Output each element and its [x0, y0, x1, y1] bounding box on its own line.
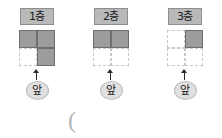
- paren-mark: (: [68, 108, 76, 132]
- grid-cell-r0c1[interactable]: [185, 30, 203, 48]
- grid-floor-1: [19, 30, 55, 66]
- grid-cell-r1c1[interactable]: [111, 48, 129, 66]
- up-arrow-icon: [180, 69, 190, 80]
- grid-cell-r1c0[interactable]: [19, 48, 37, 66]
- grid-cell-r1c1[interactable]: [37, 48, 55, 66]
- worksheet-canvas: 1층 앞 2층: [0, 0, 222, 138]
- grid-cell-r0c1[interactable]: [111, 30, 129, 48]
- figure-floor-3: 3층 앞: [148, 0, 222, 110]
- grid-cell-r0c1[interactable]: [37, 30, 55, 48]
- grid-floor-3: [167, 30, 203, 66]
- front-label-3: 앞: [174, 81, 197, 100]
- figure-row: 1층 앞 2층: [0, 0, 222, 110]
- grid-cell-r0c0[interactable]: [93, 30, 111, 48]
- grid-cell-r1c1[interactable]: [185, 48, 203, 66]
- grid-floor-2: [93, 30, 129, 66]
- arrow-shaft: [184, 72, 185, 80]
- arrow-shaft: [110, 72, 111, 80]
- up-arrow-icon: [106, 69, 116, 80]
- grid-cell-r0c0[interactable]: [19, 30, 37, 48]
- figure-floor-1: 1층 앞: [0, 0, 74, 110]
- floor-label-1: 1층: [20, 8, 54, 25]
- front-label-2: 앞: [100, 81, 123, 100]
- up-arrow-icon: [32, 69, 42, 80]
- figure-floor-2: 2층 앞: [74, 0, 148, 110]
- floor-label-3: 3층: [168, 8, 202, 25]
- arrow-shaft: [36, 72, 37, 80]
- grid-cell-r1c0[interactable]: [93, 48, 111, 66]
- grid-cell-r0c0[interactable]: [167, 30, 185, 48]
- front-label-1: 앞: [26, 81, 49, 100]
- grid-cell-r1c0[interactable]: [167, 48, 185, 66]
- floor-label-2: 2층: [94, 8, 128, 25]
